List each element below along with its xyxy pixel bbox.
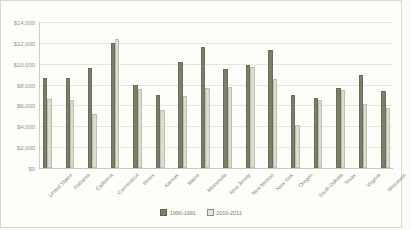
bar-group bbox=[268, 22, 277, 168]
bar-groups bbox=[39, 22, 393, 168]
bar-series-2010 bbox=[138, 89, 142, 168]
bar-group bbox=[246, 22, 255, 168]
legend-item[interactable]: 2010-2011 bbox=[207, 209, 242, 216]
bar-series-2010 bbox=[250, 67, 254, 168]
y-axis-tick-label: $6,000 bbox=[17, 102, 35, 109]
y-axis-tick-label: $2,000 bbox=[17, 144, 35, 151]
bar-group bbox=[223, 22, 232, 168]
x-axis-labels: United StatesAlabamaCaliforniaConnecticu… bbox=[39, 171, 393, 211]
bar-group bbox=[178, 22, 187, 168]
x-axis-tick: United States bbox=[43, 171, 53, 211]
bar-group bbox=[314, 22, 323, 168]
bar-series-2010 bbox=[295, 125, 299, 168]
legend-label: 1990-1991 bbox=[170, 210, 196, 216]
legend-label: 2010-2011 bbox=[216, 210, 241, 216]
legend-item[interactable]: 1990-1991 bbox=[160, 209, 195, 216]
bar-group bbox=[43, 22, 52, 168]
bar-series-2010 bbox=[92, 114, 96, 168]
bar-series-2010 bbox=[318, 100, 322, 168]
bar-series-2010 bbox=[363, 104, 367, 168]
bar-group bbox=[201, 22, 210, 168]
bar-group bbox=[88, 22, 97, 168]
bar-series-2010 bbox=[115, 39, 119, 168]
bar-group bbox=[111, 22, 120, 168]
bar-series-2010 bbox=[47, 99, 51, 168]
bar-group bbox=[133, 22, 142, 168]
y-axis-tick-label: $10,000 bbox=[14, 60, 35, 67]
bar-group bbox=[66, 22, 75, 168]
y-axis-tick-label: $8,000 bbox=[17, 81, 35, 88]
bar-group bbox=[291, 22, 300, 168]
y-axis-tick-label: $0 bbox=[28, 165, 35, 172]
y-axis-tick-label: $12,000 bbox=[14, 39, 35, 46]
y-axis-tick-label: $14,000 bbox=[14, 19, 35, 26]
plot-area bbox=[39, 22, 393, 168]
bar-group bbox=[336, 22, 345, 168]
bar-group bbox=[359, 22, 368, 168]
bar-series-2010 bbox=[273, 79, 277, 168]
x-axis-line bbox=[39, 168, 393, 169]
bar-series-2010 bbox=[160, 110, 164, 168]
y-axis-tick-label: $4,000 bbox=[17, 123, 35, 130]
y-axis-labels: $14,000$12,000$10,000$8,000$6,000$4,000$… bbox=[1, 22, 35, 168]
legend-swatch-icon bbox=[207, 209, 214, 216]
legend-swatch-icon bbox=[160, 209, 167, 216]
bar-group bbox=[381, 22, 390, 168]
bar-series-2010 bbox=[183, 96, 187, 168]
bar-series-2010 bbox=[70, 100, 74, 168]
chart-container: $14,000$12,000$10,000$8,000$6,000$4,000$… bbox=[0, 0, 402, 228]
chart-legend: 1990-19912010-2011 bbox=[1, 209, 401, 216]
bar-group bbox=[156, 22, 165, 168]
bar-series-2010 bbox=[386, 108, 390, 168]
bar-series-2010 bbox=[341, 90, 345, 168]
bar-series-2010 bbox=[228, 87, 232, 168]
bar-series-2010 bbox=[205, 88, 209, 168]
